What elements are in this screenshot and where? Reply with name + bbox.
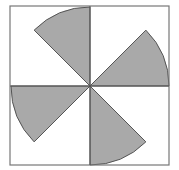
pinwheel-diagram: [0, 0, 179, 170]
sector-bottom: [90, 86, 146, 165]
sector-top: [34, 7, 90, 86]
sector-right: [90, 30, 169, 86]
sector-left: [11, 86, 90, 142]
